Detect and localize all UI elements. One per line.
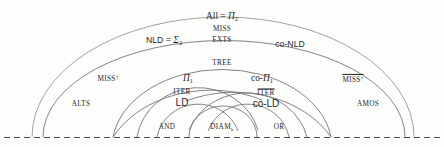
label-miss-dagger-base: MISS bbox=[97, 75, 115, 83]
label-iter-ld-group: ITER LD bbox=[173, 89, 190, 109]
arc-pi1 bbox=[137, 88, 258, 137]
label-miss-dagger-bar-base: MISS bbox=[342, 76, 360, 84]
label-miss-dagger-bar-sup: † bbox=[361, 75, 364, 80]
label-all-pi2-rel: = bbox=[220, 11, 225, 21]
label-pi1: Π1 bbox=[183, 74, 193, 84]
label-amos: AMOS bbox=[357, 101, 379, 109]
label-miss-dagger-sup: † bbox=[116, 75, 119, 80]
label-iter-bar-co-ld-stack: ITER co-LD bbox=[253, 88, 280, 109]
label-exts: EXTS bbox=[212, 37, 231, 45]
label-and: AND bbox=[159, 124, 176, 132]
label-miss-dagger-bar: MISS† bbox=[342, 74, 363, 84]
label-iter: ITER bbox=[173, 89, 190, 97]
label-co-ld: co-LD bbox=[253, 99, 280, 110]
label-pi1-sub: 1 bbox=[190, 77, 193, 84]
arc-co-pi1 bbox=[189, 93, 307, 137]
label-all-pi2-sym: Π bbox=[228, 11, 235, 21]
label-pi1-sym: Π bbox=[183, 73, 190, 83]
label-nld-sub: 2 bbox=[179, 39, 182, 46]
label-miss: MISS bbox=[213, 26, 231, 34]
label-miss-dagger-bar-inner: MISS† bbox=[342, 74, 363, 84]
label-co-nld: co-NLD bbox=[275, 40, 305, 49]
label-iter-bar-co-ld-group: ITER co-LD bbox=[253, 88, 280, 109]
label-iter-bar-wrap: ITER bbox=[253, 88, 280, 97]
arc-diagram: All = Π2 MISS EXTS NLD = Σ2 co-NLD TREE … bbox=[0, 0, 444, 147]
label-diam-base: DIAM bbox=[210, 123, 231, 131]
label-nld-sigma2: NLD = Σ2 bbox=[146, 36, 182, 46]
label-iter-ld-stack: ITER LD bbox=[173, 89, 190, 109]
label-co-pi1-sym: Π bbox=[263, 73, 270, 83]
label-diam-sub: k bbox=[231, 127, 234, 132]
label-all-pi2-sub: 2 bbox=[235, 15, 238, 22]
label-alts: ALTS bbox=[72, 101, 91, 109]
label-co-pi1-sub: 1 bbox=[270, 77, 273, 84]
label-or: OR bbox=[274, 124, 285, 132]
label-nld-name: NLD bbox=[146, 35, 164, 45]
label-iter-bar: ITER bbox=[257, 88, 274, 97]
label-co-pi1-prefix: co- bbox=[251, 73, 263, 83]
arc-iter-ld bbox=[157, 104, 238, 137]
label-diam-k: DIAMk bbox=[210, 124, 233, 132]
label-all-pi2: All = Π2 bbox=[206, 12, 238, 22]
label-ld: LD bbox=[173, 98, 190, 109]
label-tree: TREE bbox=[212, 60, 231, 68]
label-miss-dagger: MISS† bbox=[97, 75, 118, 84]
label-nld-rel: = bbox=[166, 35, 171, 45]
label-all-pi2-name: All bbox=[206, 11, 218, 21]
label-co-pi1: co-Π1 bbox=[251, 74, 273, 84]
arc-diam-k bbox=[189, 106, 257, 137]
